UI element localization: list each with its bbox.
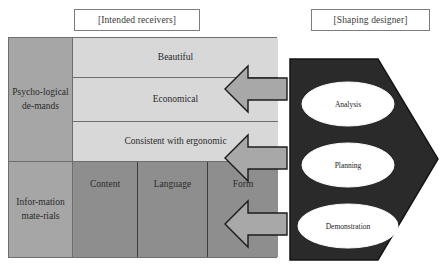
pentagon-shape	[288, 57, 440, 262]
cell-consistent-with-ergonomic-label: Consistent with ergonomic	[124, 135, 226, 149]
row-header-information-materials-label: Infor-mation mate-rials	[12, 196, 69, 224]
cell-content-label: Content	[90, 178, 120, 192]
row-header-psychological-demands-label: Psycho-logical de-mands	[12, 86, 69, 114]
left-arrow-icon-top	[224, 61, 288, 117]
caption-shaping-designer-label: [Shaping designer]	[334, 15, 408, 25]
shaping-designer-pentagon: Analysis Planning Demonstration	[288, 57, 440, 262]
cell-content: Content	[73, 162, 138, 257]
caption-intended-receivers-label: [Intended receivers]	[98, 15, 176, 25]
ellipse-demonstration	[298, 204, 398, 248]
cell-beautiful-label: Beautiful	[158, 51, 193, 65]
left-arrow-icon-bottom	[224, 196, 288, 252]
diagram-canvas: [Intended receivers] [Shaping designer] …	[0, 0, 442, 271]
cell-language-label: Language	[154, 178, 191, 192]
cell-language: Language	[138, 162, 208, 257]
caption-intended-receivers: [Intended receivers]	[74, 9, 200, 31]
left-arrow-icon-middle	[224, 130, 288, 186]
ellipse-analysis	[302, 82, 394, 126]
row-header-information-materials: Infor-mation mate-rials	[9, 162, 73, 257]
row-header-psychological-demands: Psycho-logical de-mands	[9, 38, 73, 162]
caption-shaping-designer: [Shaping designer]	[311, 9, 430, 31]
ellipse-planning	[302, 143, 394, 187]
cell-economical-label: Economical	[153, 93, 198, 107]
